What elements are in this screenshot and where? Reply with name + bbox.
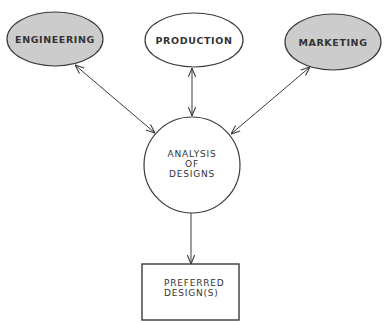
node-preferred-line1: PREFERRED [164, 278, 225, 288]
node-analysis-line1: ANALYSIS [168, 149, 217, 159]
edge-marketing-analysis [231, 67, 310, 134]
node-preferred: PREFERRED DESIGN(S) [142, 264, 239, 320]
node-engineering: ENGINEERING [7, 12, 103, 66]
node-preferred-line2: DESIGN(S) [164, 288, 219, 298]
node-production-label: PRODUCTION [156, 35, 233, 46]
edge-engineering-analysis [75, 65, 155, 133]
node-marketing: MARKETING [285, 14, 381, 70]
node-analysis: ANALYSIS OF DESIGNS [144, 117, 240, 213]
node-marketing-label: MARKETING [298, 37, 367, 48]
node-engineering-label: ENGINEERING [15, 34, 95, 45]
node-production: PRODUCTION [145, 13, 243, 67]
node-analysis-line2: OF [185, 159, 199, 169]
node-analysis-line3: DESIGNS [169, 169, 215, 179]
flow-diagram: ENGINEERING PRODUCTION MARKETING ANALYSI… [0, 0, 386, 322]
